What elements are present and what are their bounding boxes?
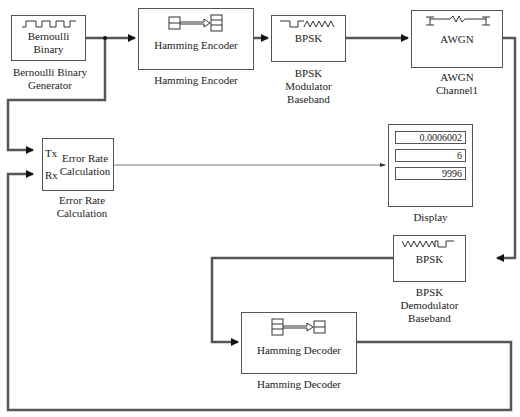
bernoulli-label-1: Bernoulli — [12, 30, 85, 43]
awgn-caption-1: AWGN — [411, 71, 503, 84]
bpsk-demod-caption-3: Baseband — [393, 312, 466, 325]
bpsk-demodulator-block[interactable]: BPSK — [393, 235, 466, 282]
bernoulli-caption-1: Bernoulli Binary — [0, 66, 100, 79]
awgn-channel-block[interactable]: AWGN — [411, 10, 503, 68]
square-wave-icon — [22, 19, 77, 29]
encoder-icon — [167, 14, 227, 32]
bpsk-modulator-label: BPSK — [272, 32, 345, 45]
display-value-bits: 9996 — [395, 167, 466, 180]
hamming-decoder-block[interactable]: Hamming Decoder — [241, 312, 357, 374]
bpsk-demodulator-label: BPSK — [394, 253, 465, 266]
bpsk-mod-caption-1: BPSK — [271, 67, 346, 80]
hamming-decoder-caption: Hamming Decoder — [241, 378, 357, 391]
square-to-sine-icon — [280, 19, 340, 29]
hamming-encoder-label: Hamming Encoder — [139, 39, 253, 52]
error-rate-block[interactable]: Tx Rx Error Rate Calculation — [42, 138, 114, 191]
awgn-label: AWGN — [412, 33, 502, 46]
hamming-decoder-label: Hamming Decoder — [242, 344, 356, 357]
bpsk-mod-caption-2: Modulator — [271, 80, 346, 93]
bernoulli-label-2: Binary — [12, 43, 85, 56]
error-rate-label-1: Error Rate — [57, 152, 113, 165]
bernoulli-caption-2: Generator — [0, 79, 100, 92]
bernoulli-binary-block[interactable]: Bernoulli Binary — [11, 15, 86, 61]
awgn-caption-2: Channel1 — [411, 84, 503, 97]
tx-port: Tx — [45, 147, 57, 159]
error-rate-caption-1: Error Rate — [42, 194, 122, 207]
hamming-encoder-block[interactable]: Hamming Encoder — [138, 8, 254, 70]
sine-to-square-icon — [402, 239, 460, 249]
hamming-encoder-caption: Hamming Encoder — [138, 74, 254, 87]
bpsk-demod-caption-1: BPSK — [393, 286, 466, 299]
bpsk-modulator-block[interactable]: BPSK — [271, 15, 346, 62]
bpsk-mod-caption-3: Baseband — [271, 93, 346, 106]
display-value-error-rate: 0.0006002 — [395, 131, 466, 144]
display-block[interactable]: 0.0006002 6 9996 — [388, 124, 473, 207]
error-rate-label-2: Calculation — [57, 165, 113, 178]
decoder-icon — [270, 318, 330, 336]
display-caption: Display — [388, 211, 473, 224]
error-rate-caption-2: Calculation — [42, 207, 122, 220]
rx-port: Rx — [45, 169, 58, 181]
display-value-errors: 6 — [395, 149, 466, 162]
channel-resistor-icon — [424, 15, 492, 29]
bpsk-demod-caption-2: Demodulator — [393, 299, 466, 312]
